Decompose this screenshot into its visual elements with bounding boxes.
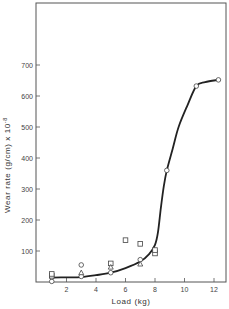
x-axis-label: Load (kg): [111, 297, 150, 306]
y-tick-label: 600: [21, 93, 33, 100]
circle-marker: [194, 84, 199, 89]
square-marker: [153, 248, 158, 253]
square-marker: [49, 272, 54, 277]
y-tick-label: 400: [21, 155, 33, 162]
x-tick-label: 12: [210, 286, 218, 293]
circle-marker: [108, 270, 113, 275]
y-tick-label: 200: [21, 217, 33, 224]
triangle-marker: [79, 270, 84, 275]
fitted-curve: [52, 80, 219, 278]
x-tick-label: 6: [124, 286, 128, 293]
x-axis-ticks: 24681012: [65, 278, 218, 293]
circle-marker: [49, 279, 54, 284]
plot-frame: [36, 3, 226, 282]
x-tick-label: 4: [94, 286, 98, 293]
y-tick-label: 500: [21, 124, 33, 131]
x-tick-label: 2: [65, 286, 69, 293]
x-tick-label: 10: [181, 286, 189, 293]
y-axis-ticks: 100200300400500600700: [21, 62, 40, 255]
y-tick-label: 700: [21, 62, 33, 69]
square-marker: [123, 238, 128, 243]
y-axis-label: Wear rate (g/cm) x 10-8: [2, 117, 12, 213]
y-tick-label: 100: [21, 248, 33, 255]
circle-marker: [216, 78, 221, 83]
x-tick-label: 8: [153, 286, 157, 293]
data-markers: [49, 78, 220, 284]
circle-marker: [79, 263, 84, 268]
wear-rate-chart: 100200300400500600700 24681012 Load (kg)…: [0, 0, 229, 309]
y-tick-label: 300: [21, 186, 33, 193]
circle-marker: [165, 168, 170, 173]
square-marker: [138, 242, 143, 247]
